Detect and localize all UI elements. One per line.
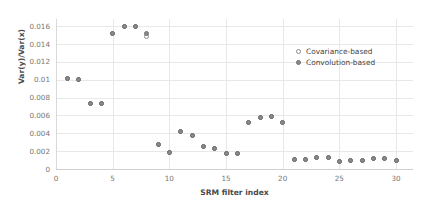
gridline-vertical bbox=[396, 19, 397, 169]
data-point-convolution bbox=[326, 155, 331, 160]
y-axis-line bbox=[56, 19, 57, 169]
data-point-convolution bbox=[292, 157, 297, 162]
y-tick-label: 0.016 bbox=[2, 23, 50, 30]
data-point-convolution bbox=[190, 133, 195, 138]
data-point-convolution bbox=[122, 24, 127, 29]
x-tick-label: 15 bbox=[211, 175, 241, 182]
data-point-convolution bbox=[156, 142, 161, 147]
legend-item-covariance[interactable]: Covariance-based bbox=[296, 46, 375, 57]
x-tick-label: 5 bbox=[98, 175, 128, 182]
gridline-vertical bbox=[339, 19, 340, 169]
gridline-horizontal bbox=[56, 26, 413, 27]
data-point-convolution bbox=[110, 31, 115, 36]
filled-circle-icon bbox=[296, 60, 301, 65]
data-point-convolution bbox=[360, 158, 365, 163]
gridline-vertical bbox=[113, 19, 114, 169]
y-tick-label: 0.006 bbox=[2, 112, 50, 119]
gridline-horizontal bbox=[56, 115, 413, 116]
legend-label: Covariance-based bbox=[306, 46, 372, 57]
gridline-vertical bbox=[169, 19, 170, 169]
gridline-horizontal bbox=[56, 98, 413, 99]
scatter-chart: 00.0020.0040.0060.0080.010.0120.0140.016… bbox=[0, 0, 432, 207]
y-tick-label: 0.014 bbox=[2, 41, 50, 48]
data-point-convolution bbox=[394, 158, 399, 163]
data-point-convolution bbox=[348, 158, 353, 163]
data-point-convolution bbox=[88, 101, 93, 106]
x-tick-label: 20 bbox=[268, 175, 298, 182]
y-tick-label: 0.002 bbox=[2, 148, 50, 155]
y-tick-label: 0.01 bbox=[2, 76, 50, 83]
data-point-convolution bbox=[303, 157, 308, 162]
data-point-convolution bbox=[224, 151, 229, 156]
data-point-convolution bbox=[258, 115, 263, 120]
plot-area bbox=[56, 19, 413, 169]
gridline-horizontal bbox=[56, 44, 413, 45]
x-tick-label: 0 bbox=[41, 175, 71, 182]
gridline-vertical bbox=[226, 19, 227, 169]
x-tick-label: 10 bbox=[154, 175, 184, 182]
y-axis-label: Var(y)/Var(x) bbox=[17, 12, 26, 102]
data-point-convolution bbox=[201, 144, 206, 149]
gridline-vertical bbox=[283, 19, 284, 169]
x-tick-label: 30 bbox=[381, 175, 411, 182]
x-tick-label: 25 bbox=[324, 175, 354, 182]
data-point-convolution bbox=[133, 24, 138, 29]
chart-legend: Covariance-based Convolution-based bbox=[296, 46, 375, 68]
y-tick-label: 0.012 bbox=[2, 58, 50, 65]
legend-item-convolution[interactable]: Convolution-based bbox=[296, 57, 375, 68]
data-point-convolution bbox=[382, 156, 387, 161]
legend-label: Convolution-based bbox=[306, 57, 375, 68]
x-axis-label: SRM filter index bbox=[56, 188, 413, 197]
data-point-convolution bbox=[144, 31, 149, 36]
gridline-horizontal bbox=[56, 133, 413, 134]
y-tick-label: 0.008 bbox=[2, 94, 50, 101]
data-point-convolution bbox=[269, 114, 274, 119]
gridline-horizontal bbox=[56, 80, 413, 81]
y-tick-label: 0 bbox=[2, 166, 50, 173]
data-point-convolution bbox=[371, 156, 376, 161]
open-circle-icon bbox=[296, 49, 301, 54]
y-tick-label: 0.004 bbox=[2, 130, 50, 137]
x-axis-line bbox=[56, 169, 413, 170]
